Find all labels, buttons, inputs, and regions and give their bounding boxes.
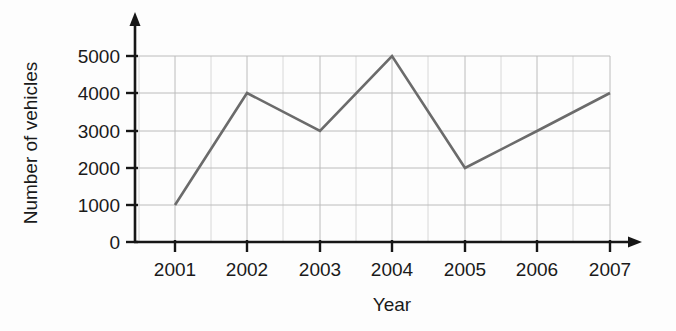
x-tick-label-2005: 2005 (444, 259, 486, 280)
line-chart-figure: 0 1000 2000 3000 4000 5000 2001 2002 200… (0, 0, 676, 331)
x-tick-label-2003: 2003 (299, 259, 341, 280)
y-axis-arrow-icon (130, 12, 141, 26)
x-tick-label-2004: 2004 (371, 259, 414, 280)
x-axis-tick-labels: 2001 2002 2003 2004 2005 2006 2007 (154, 259, 631, 280)
grid-major-vertical (175, 56, 610, 242)
x-tick-label-2007: 2007 (589, 259, 631, 280)
x-tick-label-2002: 2002 (226, 259, 268, 280)
chart-canvas: 0 1000 2000 3000 4000 5000 2001 2002 200… (0, 0, 676, 331)
y-tick-label-1000: 1000 (78, 195, 120, 216)
x-tick-label-2006: 2006 (516, 259, 558, 280)
y-tick-label-3000: 3000 (78, 121, 120, 142)
y-axis-tick-labels: 0 1000 2000 3000 4000 5000 (78, 46, 120, 253)
y-tick-label-4000: 4000 (78, 83, 120, 104)
x-axis (134, 237, 642, 248)
x-tick-label-2001: 2001 (154, 259, 196, 280)
x-axis-arrow-icon (628, 237, 642, 248)
y-axis-title: Number of vehicles (20, 62, 41, 225)
y-tick-label-0: 0 (109, 232, 120, 253)
y-tick-label-5000: 5000 (78, 46, 120, 67)
grid-minor-vertical (139, 56, 573, 242)
x-axis-title: Year (373, 294, 412, 315)
y-tick-label-2000: 2000 (78, 158, 120, 179)
